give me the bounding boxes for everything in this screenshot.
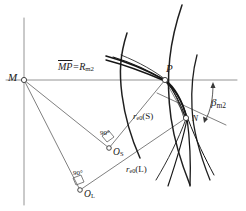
radius-equation-equals: =R <box>72 61 85 72</box>
point-label-os: OS <box>113 148 123 158</box>
node-n <box>183 115 188 120</box>
radius-long-arg: (L) <box>135 164 147 174</box>
radius-label-long: re0(L) <box>126 165 147 174</box>
diagram-canvas <box>0 0 246 211</box>
point-label-os-subscript: S <box>120 150 124 157</box>
blade-tail-4 <box>188 119 214 175</box>
arc-outer-cutter <box>168 5 190 185</box>
point-label-ol-subscript: L <box>91 192 95 199</box>
point-label-m: M <box>8 72 17 83</box>
blade-curve-1 <box>106 56 187 118</box>
radius-equation-overline-term: MP <box>58 61 72 72</box>
radius-label-short: re0(S) <box>133 112 153 121</box>
radius-equation-subscript: m2 <box>85 65 94 72</box>
arc-inner-cutter <box>120 33 140 158</box>
point-label-n: N <box>192 114 198 123</box>
radius-equation-label: MP=Rm2 <box>58 62 94 73</box>
node-os <box>107 146 112 151</box>
point-label-ol-base: O <box>84 189 91 199</box>
radius-short-arg: (S) <box>142 111 153 121</box>
point-label-p: P <box>166 63 173 74</box>
right-angle-label-os: 90° <box>100 130 110 137</box>
right-angle-label-ol: 90° <box>73 170 83 177</box>
beta-subscript: m2 <box>216 101 226 110</box>
point-label-os-base: O <box>113 147 120 157</box>
node-ol <box>78 188 83 193</box>
beta-angle-label: βm2 <box>211 97 226 109</box>
geometry-diagram-figure: M P N OS OL MP=Rm2 βm2 re0(S) re0(L) 90°… <box>0 0 246 211</box>
blade-tail-1 <box>187 118 190 186</box>
node-p <box>162 77 167 82</box>
figure-caption <box>0 203 246 211</box>
beta-arrow-top <box>211 82 216 88</box>
node-m <box>21 77 26 82</box>
line-m-to-ol <box>24 80 80 190</box>
point-label-ol: OL <box>84 190 95 200</box>
line-m-to-os <box>24 80 109 148</box>
